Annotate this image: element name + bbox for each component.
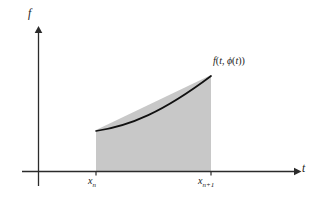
vertical-axis-label: f <box>28 8 31 20</box>
plot-canvas <box>0 0 316 211</box>
curve-annotation-label: f(t, ϕ(t)) <box>213 56 245 66</box>
xtick-label-xn: xn <box>88 176 96 189</box>
curve-label-close-paren: ) <box>242 55 245 66</box>
horizontal-axis-label: t <box>302 163 305 175</box>
vertical-axis-arrowhead <box>35 26 43 33</box>
xtick-label-xn1: xn+1 <box>198 176 214 189</box>
xtick-xn1-subscript: n+1 <box>202 181 214 189</box>
figure-container: f t f(t, ϕ(t)) xn xn+1 <box>0 0 316 211</box>
xtick-xn-subscript: n <box>92 181 96 189</box>
horizontal-axis-arrowhead <box>294 168 302 176</box>
shaded-region <box>96 75 211 172</box>
